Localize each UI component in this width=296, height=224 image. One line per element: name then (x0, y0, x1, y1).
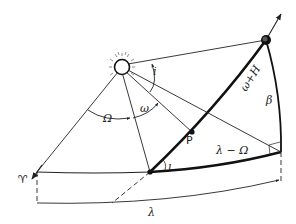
label-ascending-node-longitude: Ω (102, 112, 112, 125)
sun-to-foot-line (126, 69, 281, 152)
ascending-node-point (147, 169, 152, 174)
label-point-p: P (186, 134, 193, 147)
label-vernal-equinox: ♈ (18, 173, 28, 186)
label-inclination-node: ι (168, 160, 172, 173)
label-omega-plus-h: ω+H (238, 63, 264, 94)
sun-to-planet-line (128, 40, 266, 64)
label-latitude-beta: β (265, 94, 272, 107)
label-inclination-sun: i (153, 65, 157, 78)
lambda-arc (37, 180, 279, 203)
ecliptic-arc (37, 172, 150, 173)
sun-to-p-line (124, 70, 192, 132)
label-argument-of-perihelion: ω (140, 102, 149, 115)
sun-to-node-line (122, 72, 150, 172)
label-lambda-minus-omega: λ − Ω (215, 144, 248, 157)
orbit-arc (150, 40, 266, 172)
planet-icon (261, 35, 271, 45)
label-longitude-lambda: λ (147, 206, 155, 219)
orbital-diagram: Ω ω i ι ω+H β P λ − Ω λ ♈ (0, 0, 296, 224)
node-line-dashed (112, 172, 150, 203)
